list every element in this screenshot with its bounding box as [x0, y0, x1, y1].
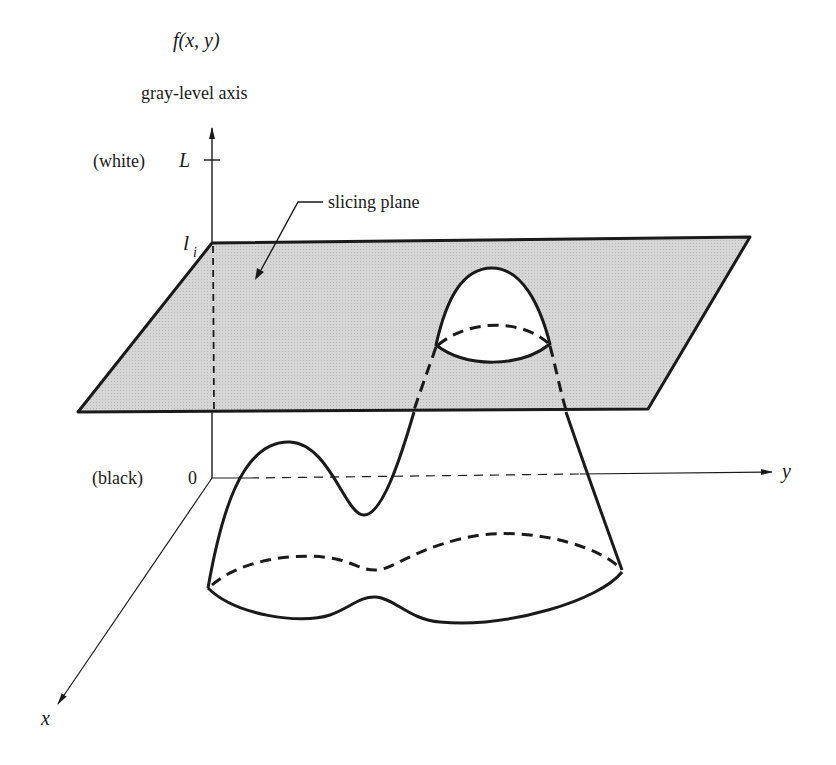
- function-label: f(x, y): [173, 29, 220, 52]
- L-label: L: [178, 149, 190, 171]
- slicing-plane: [78, 237, 750, 412]
- surface-silhouette: [208, 412, 414, 588]
- y-axis-solid-right: [580, 472, 772, 474]
- gray-level-axis-label: gray-level axis: [141, 83, 247, 103]
- x-axis-label: x: [40, 707, 50, 729]
- slicing-plane-label: slicing plane: [328, 192, 419, 212]
- zero-label: 0: [188, 468, 197, 488]
- white-label: (white): [93, 151, 145, 172]
- x-axis: [58, 478, 212, 704]
- li-subscript: i: [193, 245, 197, 260]
- base-contour-back: [212, 534, 620, 585]
- surface-right-edge: [566, 412, 622, 570]
- base-contour-front: [208, 572, 622, 623]
- slicing-plane-diagram: f(x, y) gray-level axis (white) L l i sl…: [0, 0, 836, 765]
- li-label: l: [183, 230, 189, 255]
- y-axis-hidden: [250, 474, 580, 478]
- y-axis-label: y: [780, 460, 791, 483]
- black-label: (black): [92, 468, 143, 489]
